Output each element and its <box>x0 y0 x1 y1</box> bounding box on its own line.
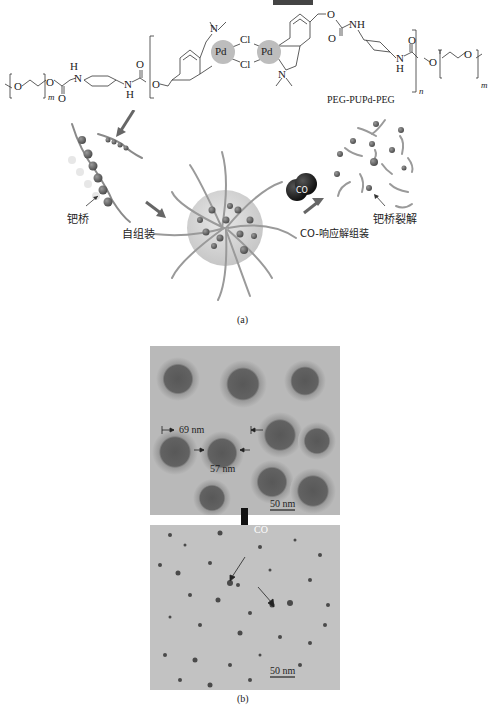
subscript-m-right: m <box>481 80 488 90</box>
polymer-name: PEG-PUPd-PEG <box>327 94 395 105</box>
h-atom: H <box>70 60 78 72</box>
o-atom: O <box>429 56 437 68</box>
outer-diameter-label: 69 nm <box>179 424 204 435</box>
o-atom: O <box>327 8 335 20</box>
scale-bar-bottom: 50 nm <box>270 665 295 676</box>
nh-group: NH <box>349 18 365 30</box>
co-molecule-label: CO <box>296 186 308 195</box>
o-atom: O <box>328 32 336 44</box>
h-atom: H <box>126 88 134 100</box>
subscript-n: n <box>419 86 424 96</box>
n-atom-top: N <box>210 22 218 34</box>
tem-image-top: 69 nm 57 nm 50 nm <box>150 346 340 515</box>
pd-atom-right: Pd <box>261 45 273 57</box>
label-pd-bridge: 钯桥 <box>67 210 89 226</box>
n-atom-bottom: N <box>278 68 286 80</box>
n-atom: N <box>74 72 82 84</box>
assembly-schematic: CO 钯桥 自组装 CO-响应解组装 钯桥裂解 (a) <box>0 110 490 320</box>
scale-bar-top: 50 nm <box>270 498 295 509</box>
label-self-assembly: 自组装 <box>122 225 155 241</box>
label-co-disassembly: CO-响应解组装 <box>300 225 369 240</box>
label-bridge-cleavage: 钯桥裂解 <box>373 210 417 226</box>
chemical-structure: Pd Pd Cl Cl N N O O O H N N H O O O O NH… <box>0 0 490 110</box>
pd-atom-left: Pd <box>215 45 227 57</box>
o-atom: O <box>408 34 416 46</box>
cl-atom-top: Cl <box>240 33 250 45</box>
h-atom: H <box>396 62 404 74</box>
caption-a: (a) <box>237 314 248 325</box>
cl-atom-bottom: Cl <box>240 58 250 70</box>
caption-b: (b) <box>237 693 249 704</box>
core-diameter-label: 57 nm <box>210 463 235 474</box>
fragment-particles <box>150 525 340 690</box>
structure-bonds <box>0 0 490 110</box>
o-atom: O <box>152 78 160 90</box>
o-atom: O <box>58 92 66 104</box>
tem-image-bottom: 50 nm <box>150 525 340 690</box>
co-arrow-label: CO <box>254 524 268 535</box>
o-atom: O <box>14 80 22 92</box>
subscript-m-left: m <box>48 92 55 102</box>
o-atom: O <box>464 48 472 60</box>
o-atom: O <box>46 76 54 88</box>
o-atom: O <box>136 58 144 70</box>
